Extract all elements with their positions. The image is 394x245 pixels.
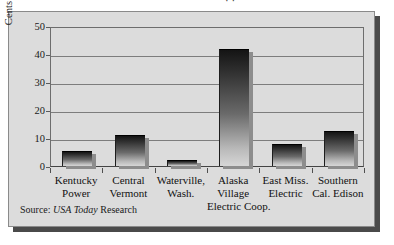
x-tick-3: [207, 168, 208, 173]
category-label-line: Waterville,: [155, 174, 207, 187]
category-label-line: Power: [50, 187, 102, 200]
source-note: Source: USA Today Research: [20, 204, 137, 215]
x-tick-0: [50, 168, 51, 173]
category-label-line: Kentucky: [50, 174, 102, 187]
figure-drop-shadow-bottom: [13, 227, 380, 232]
gridline-20: [51, 112, 363, 113]
category-label-line: Alaska: [207, 174, 259, 187]
x-tick-1: [102, 168, 103, 173]
y-axis-title: Cents per Kilowatt-hour: [3, 0, 14, 38]
category-label-line: Wash.: [155, 187, 207, 200]
category-label-1: KentuckyPower: [50, 174, 102, 200]
category-label-line: Central: [102, 174, 154, 187]
bar-5[interactable]: [272, 144, 302, 166]
category-label-line: Vermont: [102, 187, 154, 200]
category-label-line: Electric Coop.: [207, 200, 259, 213]
category-label-3: Waterville,Wash.: [155, 174, 207, 200]
gridline-40: [51, 56, 363, 57]
category-label-4: AlaskaVillageElectric Coop.: [207, 174, 259, 213]
x-tick-5: [312, 168, 313, 173]
y-tick-label-50: 50: [19, 22, 45, 33]
category-label-line: Village: [207, 187, 259, 200]
y-tick-label-20: 20: [19, 106, 45, 117]
clipped-title-fragment: · ·: [225, 0, 375, 4]
x-tick-6: [364, 168, 365, 173]
bar-3[interactable]: [167, 160, 197, 166]
gridline-10: [51, 140, 363, 141]
category-label-6: SouthernCal. Edison: [312, 174, 364, 200]
source-publication: USA Today: [53, 204, 98, 215]
x-tick-2: [155, 168, 156, 173]
bar-6[interactable]: [324, 131, 354, 166]
category-label-line: Southern: [312, 174, 364, 187]
bar-1[interactable]: [62, 151, 92, 166]
bar-2[interactable]: [115, 135, 145, 166]
y-tick-label-40: 40: [19, 50, 45, 61]
category-label-line: East Miss.: [259, 174, 311, 187]
category-label-2: CentralVermont: [102, 174, 154, 200]
y-tick-label-0: 0: [19, 162, 45, 173]
category-label-5: East Miss.Electric: [259, 174, 311, 200]
x-tick-4: [259, 168, 260, 173]
bar-4[interactable]: [219, 49, 249, 166]
y-tick-label-30: 30: [19, 78, 45, 89]
category-label-line: Electric: [259, 187, 311, 200]
category-label-line: Cal. Edison: [312, 187, 364, 200]
plot-area: [50, 27, 364, 167]
y-tick-label-10: 10: [19, 134, 45, 145]
gridline-30: [51, 84, 363, 85]
figure-drop-shadow-right: [375, 16, 380, 232]
chart-figure: Cents per Kilowatt-hour 01020304050 Kent…: [8, 11, 375, 227]
